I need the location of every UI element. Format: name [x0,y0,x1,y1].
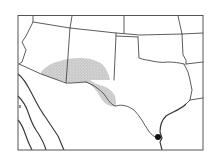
map-frame [18,16,203,151]
range-map [0,0,214,167]
state-borders [19,16,203,150]
map-canvas [0,0,214,167]
locality-dot [155,134,161,140]
mexico-coastlines [18,74,64,150]
